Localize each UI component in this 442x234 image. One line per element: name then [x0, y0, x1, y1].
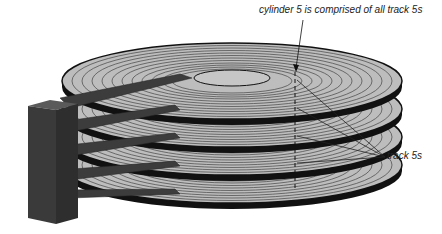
- tracks-label: track 5s: [387, 150, 422, 161]
- disk-diagram: cylinder 5 is comprised of all track 5s …: [0, 0, 442, 234]
- actuator-block: [28, 100, 78, 224]
- spindle-hub: [194, 70, 270, 86]
- cylinder-label: cylinder 5 is comprised of all track 5s: [259, 4, 422, 15]
- platter-stack-illustration: [0, 0, 442, 234]
